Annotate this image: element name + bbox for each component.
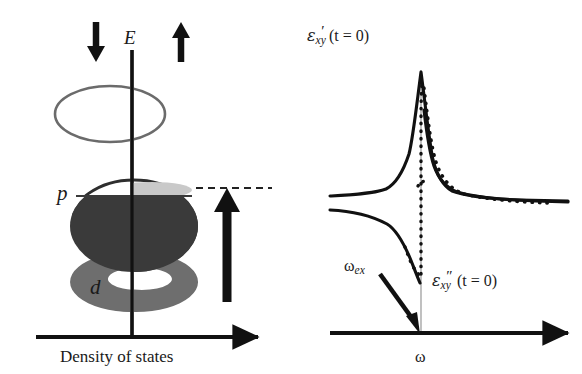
- omega-ex-pointer-arrow-icon: [380, 274, 420, 334]
- omega-symbol: ω: [344, 257, 355, 274]
- epsilon-symbol: ε: [432, 271, 441, 290]
- epsilon-real-argument: (t = 0): [329, 27, 369, 44]
- dispersive-curve-right-branch: [424, 110, 568, 202]
- spin-up-arrow-icon: [172, 22, 190, 62]
- spin-down-arrow-icon: [87, 22, 105, 62]
- absorptive-peak-curve: [330, 72, 568, 201]
- p-band-label: p: [57, 183, 68, 204]
- epsilon-imaginary-part-label: εxy″ (t = 0): [432, 268, 497, 292]
- figure-vector-layer: [0, 0, 582, 374]
- epsilon-prime-mark: ′: [321, 22, 324, 39]
- epsilon-symbol: ε: [307, 26, 316, 45]
- resonance-frequency-label: ωex: [344, 258, 365, 277]
- optical-transition-arrow-icon: [214, 188, 240, 302]
- omega-subscript: ex: [355, 264, 365, 276]
- epsilon-real-part-label: εxy′ (t = 0): [307, 23, 369, 47]
- figure-root: E p d Density of states εxy′ (t = 0) εxy…: [0, 0, 582, 374]
- d-band-label: d: [90, 277, 101, 298]
- density-of-states-axis-label: Density of states: [60, 348, 173, 365]
- dotted-broadened-tail-curve: [424, 88, 548, 203]
- energy-axis-label: E: [124, 28, 136, 47]
- omega-axis-label: ω: [415, 349, 426, 365]
- epsilon-imaginary-argument: (t = 0): [457, 272, 497, 289]
- epsilon-double-prime-mark: ″: [446, 267, 452, 284]
